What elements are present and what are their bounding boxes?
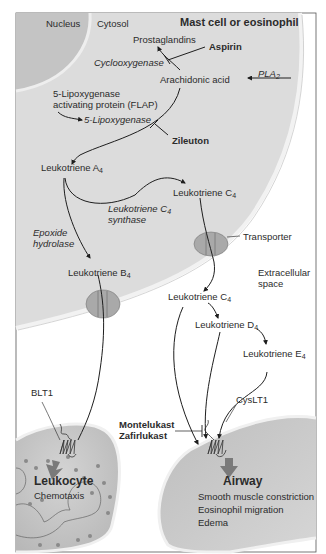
transporter-protein [194,232,228,256]
extracellular-label-line1: Extracellular [258,267,310,278]
flap-label-line2: activating protein (FLAP) [53,99,158,110]
leukocyte-label: Leukocyte [34,476,93,487]
diagram-title: Mast cell or eosinophil [180,17,299,28]
leukotriene-a4-label: Leukotriene A4 [41,162,103,173]
zafirlukast-label: Zafirlukast [119,430,167,441]
prostaglandins-label: Prostaglandins [133,34,196,45]
leukotriene-pathway-diagram: Nucleus Cytosol Mast cell or eosinophil … [0,0,326,554]
five-lipoxygenase-label: 5-Lipoxygenase [84,114,151,125]
transporter-label: Transporter [243,231,292,242]
extracellular-label-line2: space [258,278,283,289]
flap-label-line1: 5-Lipoxygenase [53,88,120,99]
airway-effect-eosinophil-migration: Eosinophil migration [198,504,284,515]
nucleus-label: Nucleus [46,18,80,29]
montelukast-label: Montelukast [119,419,174,430]
airway-effect-edema: Edema [198,517,228,528]
leukocyte-effect-chemotaxis: Chemotaxis [34,490,84,501]
cytosol-label: Cytosol [97,18,129,29]
aspirin-label: Aspirin [209,41,242,52]
airway-label: Airway [223,476,262,487]
leukotriene-c4-outside-label: Leukotriene C4 [168,291,231,302]
ltc4-synthase-label-line2: synthase [108,214,146,225]
airway-effect-smooth-muscle: Smooth muscle constriction [198,491,314,502]
leukotriene-e4-label: Leukotriene E4 [243,348,306,359]
cyslt1-label: CysLT1 [236,394,268,405]
leukotriene-d4-label: Leukotriene D4 [195,319,258,330]
leukotriene-c4-inside-label: Leukotriene C4 [173,187,236,198]
epoxide-hydrolase-label-line2: hydrolase [33,238,74,249]
cyclooxygenase-label: Cyclooxygenase [94,57,164,68]
arachidonic-acid-label: Arachidonic acid [160,74,230,85]
blt1-label: BLT1 [31,387,53,398]
ltc4-synthase-label-line1: Leukotriene C4 [108,203,171,214]
pla2-label: PLA2 [258,68,280,79]
leukotriene-b4-label: Leukotriene B4 [68,267,131,278]
epoxide-hydrolase-label-line1: Epoxide [33,227,67,238]
zileuton-label: Zileuton [172,135,209,146]
